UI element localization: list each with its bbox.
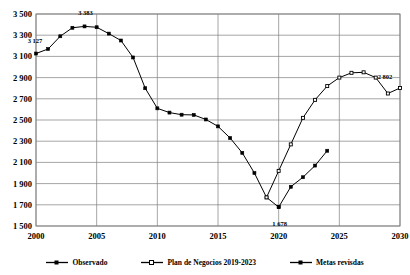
y-tick-label: 3 500 xyxy=(0,9,32,19)
x-tick-label: 2000 xyxy=(16,231,56,241)
y-tick-label: 1 900 xyxy=(0,179,32,189)
chart-legend: ObservadoPlan de Negocios 2019-2023Metas… xyxy=(0,253,410,271)
x-tick-label: 2010 xyxy=(137,231,177,241)
y-tick-label: 3 100 xyxy=(0,51,32,61)
y-tick-label: 2 100 xyxy=(0,157,32,167)
legend-marker-icon xyxy=(141,258,163,267)
y-tick-label: 2 700 xyxy=(0,94,32,104)
line-chart: 3 5003 3003 1002 9002 7002 5002 3002 100… xyxy=(0,0,410,275)
y-tick-label: 2 500 xyxy=(0,115,32,125)
legend-item-2[interactable]: Metas revisdas xyxy=(290,258,364,267)
x-tick-label: 2015 xyxy=(198,231,238,241)
legend-item-1[interactable]: Plan de Negocios 2019-2023 xyxy=(141,258,256,267)
y-tick-label: 1 500 xyxy=(0,221,32,231)
y-tick-label: 2 300 xyxy=(0,136,32,146)
legend-label: Plan de Negocios 2019-2023 xyxy=(167,258,256,267)
data-label: 2 802 xyxy=(375,73,395,80)
data-label: 3 383 xyxy=(76,9,96,16)
x-tick-label: 2025 xyxy=(319,231,359,241)
legend-marker-icon xyxy=(46,258,68,267)
legend-label: Metas revisdas xyxy=(316,258,364,267)
x-tick-label: 2020 xyxy=(259,231,299,241)
data-label: 3 127 xyxy=(25,37,45,44)
x-tick-label: 2005 xyxy=(77,231,117,241)
legend-label: Observado xyxy=(72,258,107,267)
y-tick-label: 2 900 xyxy=(0,73,32,83)
data-label: 1 678 xyxy=(270,220,290,227)
legend-marker-icon xyxy=(290,258,312,267)
x-tick-label: 2030 xyxy=(380,231,410,241)
legend-item-0[interactable]: Observado xyxy=(46,258,107,267)
y-tick-label: 1 700 xyxy=(0,200,32,210)
